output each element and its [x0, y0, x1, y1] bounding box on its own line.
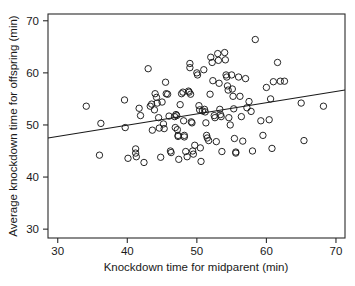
data-point	[266, 117, 272, 123]
y-axis-ticks	[43, 21, 48, 229]
data-point	[227, 122, 233, 128]
data-point	[133, 154, 139, 160]
data-point	[141, 159, 147, 165]
data-point	[229, 86, 235, 92]
data-point	[215, 57, 221, 63]
data-point	[246, 98, 252, 104]
x-tick-label-50: 50	[190, 245, 203, 257]
plot-border	[48, 14, 345, 238]
x-axis-ticks	[58, 238, 336, 243]
x-axis-title: Knockdown time for midparent (min)	[104, 261, 289, 273]
y-tick-label-30: 30	[26, 223, 39, 235]
x-tick-label-40: 40	[121, 245, 134, 257]
y-tick-label-50: 50	[26, 119, 39, 131]
data-point	[210, 77, 216, 83]
data-point	[83, 103, 89, 109]
data-point	[237, 93, 243, 99]
data-point	[230, 93, 236, 99]
data-point	[258, 118, 264, 124]
data-point-series	[83, 36, 327, 165]
data-point	[177, 101, 183, 107]
data-point	[98, 120, 104, 126]
regression-trendline	[48, 90, 345, 138]
x-axis-tick-labels: 3040506070	[51, 245, 342, 257]
data-point	[201, 67, 207, 73]
plot-frame	[48, 14, 345, 238]
data-point	[270, 79, 276, 85]
data-point	[219, 148, 225, 154]
data-point	[178, 91, 184, 97]
data-point	[281, 78, 287, 84]
data-point	[225, 87, 231, 93]
data-point	[96, 152, 102, 158]
y-axis-title: Average knockdown time for offspring (mi…	[7, 15, 19, 237]
data-point	[240, 138, 246, 144]
data-point	[213, 138, 219, 144]
data-point	[238, 113, 244, 119]
trendline-path	[48, 90, 345, 138]
x-tick-label-30: 30	[51, 245, 64, 257]
y-axis-tick-labels: 3040506070	[26, 15, 39, 235]
data-point	[226, 114, 232, 120]
data-point	[145, 66, 151, 72]
data-point	[242, 75, 248, 81]
data-point	[320, 103, 326, 109]
data-point	[162, 79, 168, 85]
data-point	[274, 59, 280, 65]
y-tick-label-60: 60	[26, 67, 39, 79]
x-tick-label-60: 60	[260, 245, 273, 257]
data-point	[121, 97, 127, 103]
data-point	[198, 158, 204, 164]
chart-canvas: 3040506070 3040506070 Knockdown time for…	[0, 0, 355, 286]
data-point	[149, 127, 155, 133]
data-point	[151, 107, 157, 113]
data-point	[301, 137, 307, 143]
data-point	[263, 84, 269, 90]
data-point	[298, 100, 304, 106]
data-point	[203, 120, 209, 126]
data-point	[248, 108, 254, 114]
data-point	[207, 91, 213, 97]
data-point	[267, 96, 273, 102]
data-point	[161, 125, 167, 131]
data-point	[231, 135, 237, 141]
data-point	[252, 36, 258, 42]
data-point	[136, 105, 142, 111]
data-point	[269, 145, 275, 151]
data-point	[176, 156, 182, 162]
scatter-plot-figure: 3040506070 3040506070 Knockdown time for…	[0, 0, 355, 286]
data-point	[235, 74, 241, 80]
data-point	[260, 132, 266, 138]
data-point	[222, 57, 228, 63]
data-point	[125, 155, 131, 161]
data-point	[215, 50, 221, 56]
data-point	[180, 118, 186, 124]
data-point	[157, 154, 163, 160]
y-tick-label-70: 70	[26, 15, 39, 27]
data-point	[197, 145, 203, 151]
x-tick-label-70: 70	[330, 245, 343, 257]
data-point	[221, 49, 227, 55]
data-point	[152, 91, 158, 97]
data-point	[187, 64, 193, 70]
data-point	[216, 80, 222, 86]
y-tick-label-40: 40	[26, 171, 39, 183]
data-point	[137, 112, 143, 118]
data-point	[249, 148, 255, 154]
